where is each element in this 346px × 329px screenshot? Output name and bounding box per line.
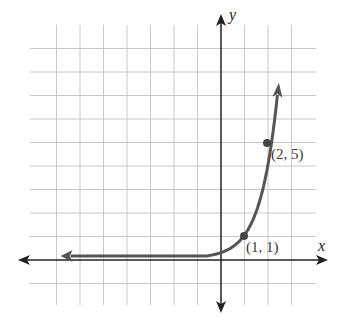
data-point-marker: [263, 139, 271, 147]
data-point-label: (2, 5): [271, 146, 304, 163]
axes: [18, 14, 328, 313]
curve-arrowheads: [61, 83, 283, 262]
data-points: (1, 1)(2, 5): [240, 139, 304, 256]
exponential-graph: (1, 1)(2, 5) x y: [0, 0, 346, 329]
data-point-label: (1, 1): [246, 239, 279, 256]
y-axis-label: y: [227, 6, 237, 24]
grid-lines: [30, 25, 316, 305]
x-axis-label: x: [317, 237, 325, 254]
